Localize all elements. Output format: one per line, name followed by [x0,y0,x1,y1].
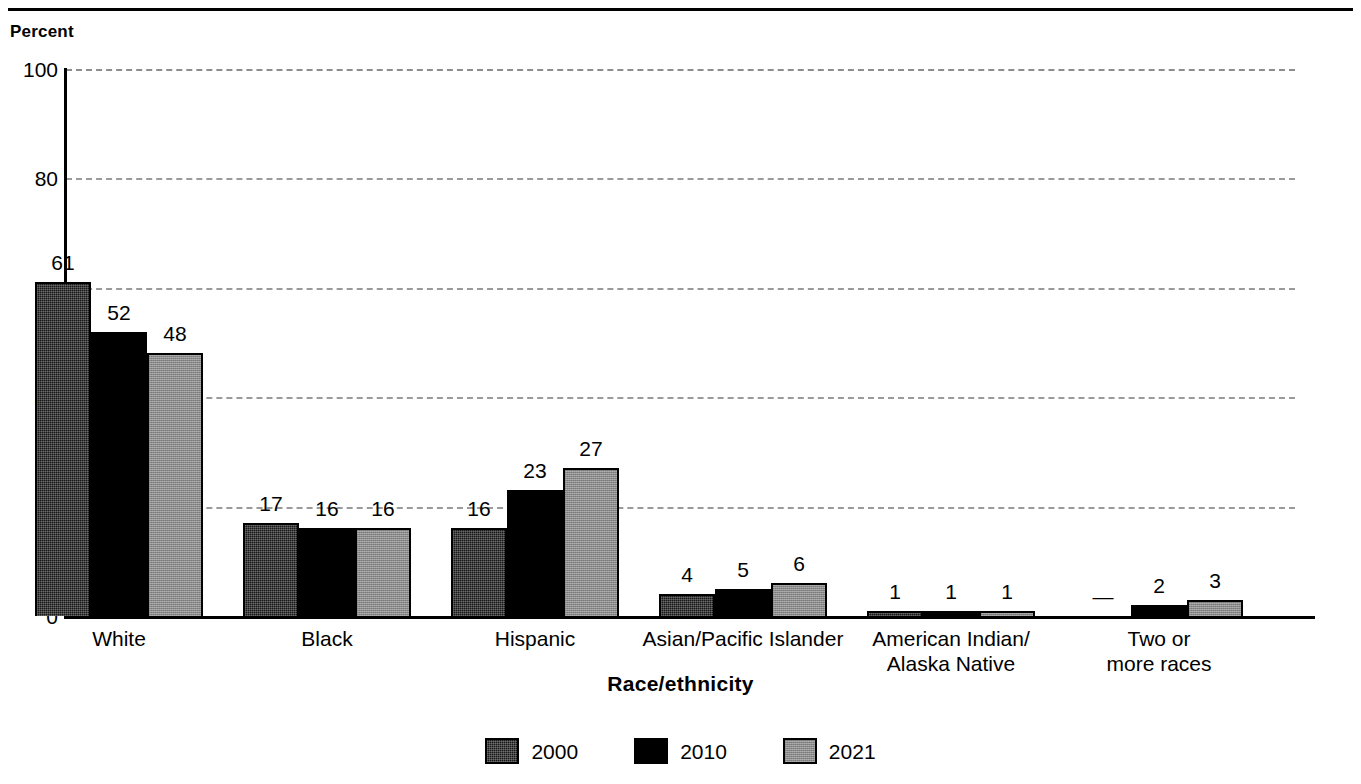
bar [659,594,715,616]
chart-plot-area: 020406080100 615248171616162327456111—23… [0,0,1361,784]
bar-value-label: 1 [979,581,1035,602]
legend-item[interactable]: 2000 [485,738,578,764]
legend-item[interactable]: 2010 [634,738,727,764]
bar-value-label: 3 [1187,570,1243,591]
x-axis-title: Race/ethnicity [0,672,1361,696]
bar-value-label: 17 [243,493,299,514]
chart-legend: 200020102021 [0,738,1361,764]
legend-label: 2021 [829,741,876,762]
bar [867,611,923,616]
bar [563,468,619,616]
bar [451,528,507,616]
bar-value-label: 1 [923,581,979,602]
bar [507,490,563,616]
bar-value-label: 23 [507,460,563,481]
bar-value-label: 48 [147,323,203,344]
bar [771,583,827,616]
bar-value-label: — [1075,586,1131,607]
bar-value-label: 27 [563,438,619,459]
bar [923,611,979,616]
bar-value-label: 6 [771,553,827,574]
bar [91,332,147,616]
legend-item[interactable]: 2021 [783,738,876,764]
bar-value-label: 4 [659,564,715,585]
bar-value-label: 2 [1131,575,1187,596]
bar-value-label: 1 [867,581,923,602]
category-label: Two or more races [1029,626,1289,676]
bar-value-label: 52 [91,302,147,323]
bar [979,611,1035,616]
bar [147,353,203,616]
bar-value-label: 5 [715,559,771,580]
bar [1131,605,1187,616]
bar-value-label: 16 [299,498,355,519]
bar-value-label: 16 [355,498,411,519]
bar [355,528,411,616]
legend-label: 2010 [680,741,727,762]
bar [1187,600,1243,616]
bar-value-label: 61 [35,252,91,273]
bar-value-label: 16 [451,498,507,519]
bar [243,523,299,616]
bar [715,589,771,616]
legend-label: 2000 [531,741,578,762]
legend-swatch-icon [634,738,668,764]
bar [35,282,91,616]
legend-swatch-icon [485,738,519,764]
bar [299,528,355,616]
legend-swatch-icon [783,738,817,764]
